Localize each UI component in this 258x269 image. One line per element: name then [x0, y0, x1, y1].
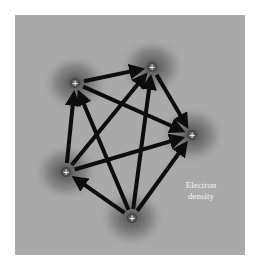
label-line-1: Electron: [176, 180, 226, 191]
nucleus-top: +: [147, 62, 157, 72]
plus-charge-icon: +: [149, 63, 156, 72]
nucleus-bottom: +: [127, 213, 137, 223]
nucleus-right: +: [187, 130, 197, 140]
label-line-2: density: [176, 191, 226, 202]
nucleus-left: +: [61, 167, 71, 177]
electron-density-diagram: +++++: [0, 0, 258, 269]
nucleus-top-left: +: [70, 78, 80, 88]
plus-charge-icon: +: [189, 131, 196, 140]
plus-charge-icon: +: [63, 168, 70, 177]
plus-charge-icon: +: [72, 79, 79, 88]
plus-charge-icon: +: [129, 214, 136, 223]
electron-density-label: Electron density: [176, 180, 226, 202]
